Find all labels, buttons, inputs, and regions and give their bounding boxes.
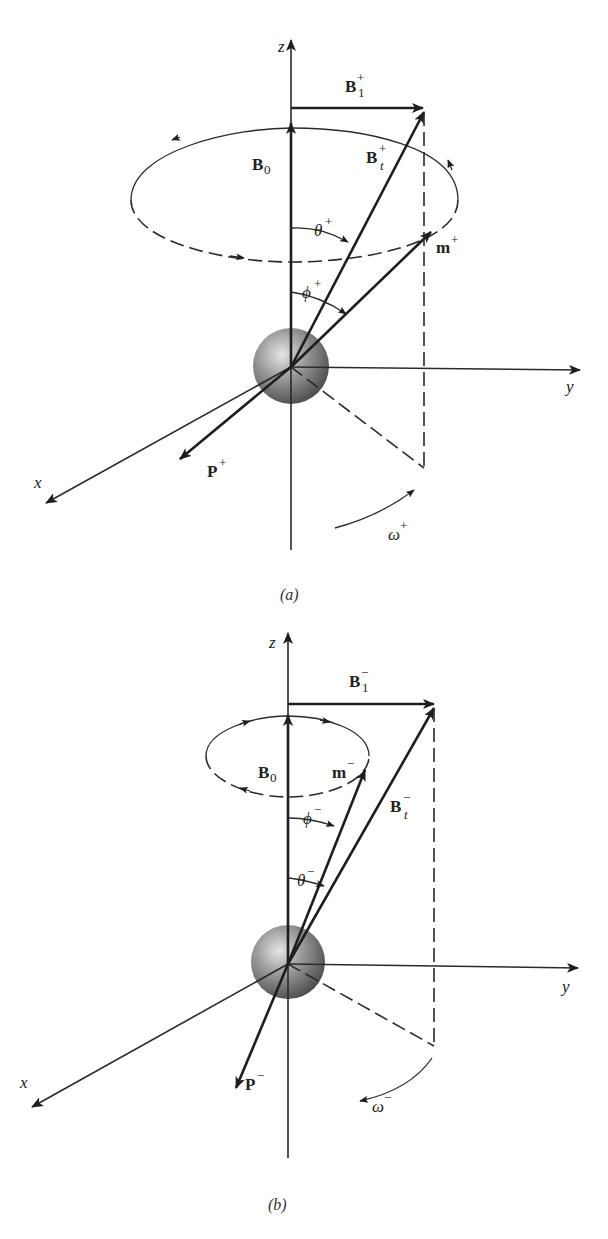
svg-text:+: +	[451, 232, 458, 247]
svg-text:m: m	[332, 763, 346, 782]
svg-text:+: +	[379, 141, 386, 156]
projection-line-diagonal	[291, 367, 424, 468]
svg-text:+: +	[357, 70, 364, 85]
panel-b: z y x B 0 B − 1 B − t	[19, 633, 578, 1214]
svg-text:0: 0	[264, 162, 271, 177]
projection-line-diagonal	[288, 964, 434, 1046]
svg-text:−: −	[257, 1068, 264, 1083]
svg-text:B: B	[345, 77, 356, 96]
phi-arc	[291, 292, 346, 314]
m-vector	[288, 770, 365, 964]
svg-text:B: B	[366, 148, 377, 167]
svg-text:B: B	[349, 672, 360, 691]
theta-arc	[289, 878, 324, 886]
y-axis-label: y	[564, 377, 574, 396]
m-label: m −	[332, 756, 354, 782]
bt-label: B + t	[366, 141, 386, 173]
svg-text:−: −	[347, 756, 354, 771]
bt-vector	[291, 112, 424, 367]
x-axis-label: x	[19, 1073, 28, 1092]
bt-vector	[288, 708, 434, 964]
svg-text:θ: θ	[314, 221, 322, 240]
svg-text:θ: θ	[297, 871, 305, 890]
b0-label: B 0	[258, 763, 277, 785]
m-label: m +	[436, 232, 458, 257]
svg-text:−: −	[307, 864, 314, 879]
precession-arrow	[448, 160, 452, 170]
b1-label: B + 1	[345, 70, 365, 100]
svg-text:−: −	[403, 790, 410, 805]
omega-arrow	[360, 1058, 432, 1101]
svg-text:−: −	[361, 665, 368, 680]
svg-text:t: t	[404, 807, 408, 822]
svg-text:−: −	[314, 802, 321, 817]
svg-text:ω: ω	[372, 1097, 384, 1116]
svg-text:ϕ: ϕ	[302, 283, 311, 302]
x-axis-label: x	[33, 473, 42, 492]
theta-label: θ −	[297, 864, 314, 890]
svg-text:B: B	[390, 797, 401, 816]
omega-label: ω −	[372, 1090, 391, 1116]
svg-text:−: −	[384, 1090, 391, 1105]
z-axis-label: z	[277, 37, 285, 56]
svg-text:+: +	[400, 518, 407, 533]
svg-text:m: m	[436, 238, 450, 257]
omega-label: ω +	[388, 518, 407, 544]
svg-text:P: P	[207, 462, 217, 481]
svg-text:0: 0	[270, 770, 277, 785]
panel-a-caption: (a)	[280, 586, 299, 604]
svg-text:+: +	[219, 455, 226, 470]
figure-canvas: z y x B 0 B + 1 B + t	[0, 0, 608, 1239]
svg-text:1: 1	[362, 680, 369, 695]
p-vector	[180, 367, 291, 459]
y-axis	[288, 964, 578, 968]
theta-label: θ +	[314, 214, 332, 240]
precession-arrow	[240, 721, 250, 724]
panel-a: z y x B 0 B + 1 B + t	[33, 37, 580, 604]
svg-text:B: B	[258, 763, 269, 782]
svg-text:ϕ: ϕ	[303, 809, 312, 828]
svg-text:P: P	[245, 1075, 255, 1094]
b1-label: B − 1	[349, 665, 369, 695]
svg-text:+: +	[325, 214, 332, 229]
x-axis	[46, 367, 291, 503]
svg-text:t: t	[380, 158, 384, 173]
y-axis	[291, 367, 580, 370]
precession-arrow	[172, 137, 180, 140]
svg-text:1: 1	[358, 85, 365, 100]
svg-text:+: +	[314, 276, 321, 291]
phi-label: ϕ −	[303, 802, 321, 828]
p-label: P +	[207, 455, 226, 481]
m-vector	[291, 232, 431, 367]
bt-label: B − t	[390, 790, 410, 822]
svg-text:B: B	[252, 155, 263, 174]
svg-text:ω: ω	[388, 525, 400, 544]
panel-b-caption: (b)	[268, 1196, 287, 1214]
b0-label: B 0	[252, 155, 271, 177]
y-axis-label: y	[560, 977, 570, 996]
phi-label: ϕ +	[302, 276, 321, 302]
z-axis-label: z	[268, 633, 276, 652]
p-label: P −	[245, 1068, 264, 1094]
